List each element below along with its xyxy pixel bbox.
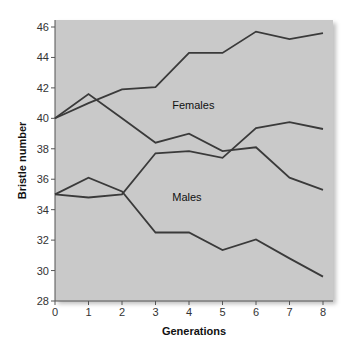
y-tick-label: 44 bbox=[37, 51, 49, 63]
annotation-females: Females bbox=[172, 99, 215, 111]
x-tick-label: 4 bbox=[186, 306, 192, 318]
x-tick-label: 2 bbox=[119, 306, 125, 318]
y-tick-label: 40 bbox=[37, 112, 49, 124]
y-tick-label: 34 bbox=[37, 204, 49, 216]
x-tick-label: 5 bbox=[219, 306, 225, 318]
y-tick-label: 30 bbox=[37, 265, 49, 277]
x-tick-label: 8 bbox=[320, 306, 326, 318]
annotation-males: Males bbox=[172, 191, 202, 203]
y-tick-label: 32 bbox=[37, 234, 49, 246]
x-tick-label: 6 bbox=[253, 306, 259, 318]
y-tick-label: 36 bbox=[37, 173, 49, 185]
y-tick-label: 38 bbox=[37, 143, 49, 155]
x-tick-label: 1 bbox=[85, 306, 91, 318]
x-tick-label: 7 bbox=[286, 306, 292, 318]
x-tick-label: 3 bbox=[152, 306, 158, 318]
line-chart: 28303234363840424446012345678 FemalesMal… bbox=[0, 0, 348, 351]
x-tick-label: 0 bbox=[52, 306, 58, 318]
y-tick-label: 46 bbox=[37, 21, 49, 33]
y-tick-label: 28 bbox=[37, 295, 49, 307]
y-axis-title: Bristle number bbox=[16, 121, 28, 199]
x-axis-title: Generations bbox=[162, 325, 226, 337]
y-tick-label: 42 bbox=[37, 82, 49, 94]
